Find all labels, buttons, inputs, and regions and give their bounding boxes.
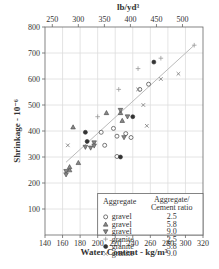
y-tick-label: 400 xyxy=(28,127,40,136)
marker-circle-filled xyxy=(83,130,87,134)
marker-plus xyxy=(116,87,121,92)
marker-x xyxy=(145,124,149,128)
legend-header-ratio-2: Cement ratio xyxy=(151,203,193,212)
marker-triangle-up xyxy=(67,165,72,169)
marker-x xyxy=(66,144,70,148)
marker-triangle-down xyxy=(88,146,93,150)
marker-plus xyxy=(95,114,100,119)
y-tick-label: 800 xyxy=(28,23,40,32)
x-tick-label: 320 xyxy=(197,239,209,248)
y-tick-label: 200 xyxy=(28,179,40,188)
top-tick-label: 450 xyxy=(150,15,162,24)
top-tick-label: 250 xyxy=(46,15,58,24)
legend-entry-ratio: 9.0 xyxy=(167,249,177,258)
marker-plus xyxy=(159,56,164,61)
marker-circle-open xyxy=(147,82,151,86)
marker-plus xyxy=(103,237,108,242)
y-tick-label: 600 xyxy=(28,75,40,84)
marker-triangle-up xyxy=(104,111,109,115)
marker-circle-filled xyxy=(131,115,135,119)
y-tick-label: 100 xyxy=(28,205,40,214)
x-tick-label: 140 xyxy=(39,239,51,248)
marker-plus xyxy=(136,66,141,71)
legend-header-aggregate: Aggregate xyxy=(103,197,137,206)
marker-x xyxy=(177,72,181,76)
marker-circle-open xyxy=(99,130,103,134)
top-axis-label: lb/yd³ xyxy=(117,2,140,12)
marker-triangle-down xyxy=(83,145,88,149)
top-tick-label: 350 xyxy=(98,15,110,24)
trend-line xyxy=(66,45,194,162)
marker-circle-open xyxy=(111,126,115,130)
y-tick-label: 300 xyxy=(28,153,40,162)
marker-circle-open xyxy=(103,143,107,147)
shrinkage-scatter-chart: 1401601802002202402602803003201002003004… xyxy=(0,0,219,269)
top-tick-label: 500 xyxy=(176,15,188,24)
marker-circle-filled xyxy=(85,139,89,143)
x-tick-label: 300 xyxy=(179,239,191,248)
marker-circle-filled xyxy=(118,155,122,159)
marker-triangle-down xyxy=(122,136,127,140)
marker-triangle-down xyxy=(125,115,130,119)
marker-circle-filled xyxy=(152,60,156,64)
marker-circle-open xyxy=(124,132,128,136)
marker-triangle-down xyxy=(64,173,69,177)
marker-circle-open xyxy=(104,215,108,219)
marker-circle-open xyxy=(129,136,133,140)
top-tick-label: 300 xyxy=(72,15,84,24)
top-tick-label: 400 xyxy=(124,15,136,24)
marker-circle-open xyxy=(115,134,119,138)
marker-triangle-up xyxy=(120,118,125,122)
y-tick-label: 700 xyxy=(28,49,40,58)
marker-triangle-up xyxy=(71,125,76,129)
y-axis-label: Shrinkage - 10⁻⁶ xyxy=(12,99,22,163)
y-tick-label: 500 xyxy=(28,101,40,110)
x-tick-label: 160 xyxy=(57,239,69,248)
x-axis-label: Water Content - kg/m³ xyxy=(81,247,168,257)
